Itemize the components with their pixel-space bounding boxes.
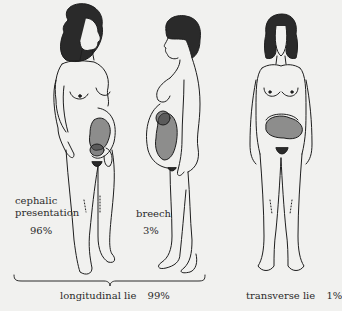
longitudinal-lie-text: longitudinal lie [60,290,136,301]
breech-percent: 3% [143,225,159,237]
transverse-lie-percent: 1% [326,290,342,301]
cephalic-label-line1: cephalic [15,195,79,207]
transverse-figure [250,14,312,271]
cephalic-label: cephalic presentation [15,195,79,219]
transverse-lie-text: transverse lie [246,290,315,301]
transverse-lie-label: transverse lie 1% [246,290,342,302]
longitudinal-lie-label: longitudinal lie 99% [60,290,170,302]
cephalic-label-line2: presentation [15,207,79,219]
longitudinal-brace [14,275,205,286]
cephalic-figure [54,4,115,274]
hair-shape [166,16,201,58]
longitudinal-lie-percent: 99% [148,290,170,301]
breech-label: breech [136,208,171,220]
cephalic-percent: 96% [30,225,52,237]
